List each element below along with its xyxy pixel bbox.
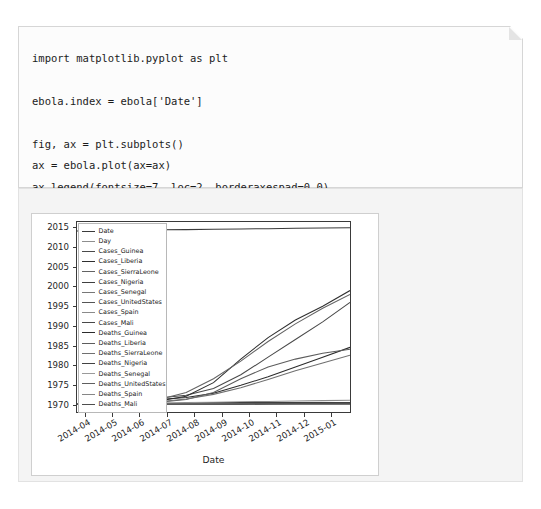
legend-label: Date (99, 228, 114, 234)
corner-fold-icon (509, 27, 522, 40)
legend-entry: Cases_UnitedStates (82, 297, 163, 307)
y-tick-label: 1995 (37, 301, 69, 311)
y-tick-mark (73, 306, 77, 307)
legend-label: Cases_Liberia (99, 258, 143, 264)
legend-label: Deaths_Mali (99, 401, 138, 407)
legend-entry: Cases_Mali (82, 318, 163, 328)
legend-swatch-icon (82, 251, 95, 252)
legend-label: Cases_Guinea (99, 248, 144, 254)
legend-label: Deaths_UnitedStates (99, 381, 166, 387)
legend-entry: Date (82, 226, 163, 236)
legend-label: Day (99, 238, 112, 244)
y-tick-label: 2015 (37, 222, 69, 232)
legend-entry: Deaths_Liberia (82, 338, 163, 348)
legend-label: Deaths_Senegal (99, 371, 151, 377)
y-tick-mark (73, 365, 77, 366)
legend-label: Deaths_Spain (99, 391, 143, 397)
x-tick-mark (112, 413, 113, 417)
y-tick-mark (73, 346, 77, 347)
legend-swatch-icon (82, 282, 95, 283)
legend-entry: Day (82, 236, 163, 246)
y-tick-label: 1970 (37, 400, 69, 410)
legend-swatch-icon (82, 302, 95, 303)
legend-swatch-icon (82, 271, 95, 272)
x-axis-label: Date (76, 454, 351, 465)
x-tick-mark (331, 413, 332, 417)
legend-swatch-icon (82, 404, 95, 405)
x-tick-mark (222, 413, 223, 417)
legend-entry: Deaths_UnitedStates (82, 379, 163, 389)
y-tick-label: 1990 (37, 321, 69, 331)
cell-output-area: 1970197519801985199019952000200520102015… (18, 188, 523, 482)
legend-entry: Cases_Nigeria (82, 277, 163, 287)
legend-label: Deaths_Liberia (99, 340, 147, 346)
legend-swatch-icon (82, 312, 95, 313)
legend-entry: Cases_Spain (82, 308, 163, 318)
legend-entry: Deaths_SierraLeone (82, 348, 163, 358)
y-tick-label: 1975 (37, 380, 69, 390)
x-tick-mark (249, 413, 250, 417)
legend-entry: Cases_Senegal (82, 287, 163, 297)
x-tick-mark (194, 413, 195, 417)
code-cell[interactable]: import matplotlib.pyplot as plt ebola.in… (18, 26, 523, 188)
legend-label: Deaths_Guinea (99, 330, 148, 336)
x-tick-mark (304, 413, 305, 417)
plot-legend: DateDayCases_GuineaCases_LiberiaCases_Si… (78, 223, 167, 413)
y-tick-mark (73, 286, 77, 287)
legend-swatch-icon (82, 383, 95, 384)
y-tick-mark (73, 247, 77, 248)
legend-label: Cases_Nigeria (99, 279, 144, 285)
legend-swatch-icon (82, 261, 95, 262)
y-tick-label: 2005 (37, 262, 69, 272)
legend-entry: Deaths_Nigeria (82, 358, 163, 368)
y-tick-mark (73, 405, 77, 406)
legend-label: Cases_UnitedStates (99, 299, 162, 305)
legend-label: Deaths_Nigeria (99, 360, 148, 366)
legend-swatch-icon (82, 231, 95, 232)
legend-label: Deaths_SierraLeone (99, 350, 163, 356)
x-tick-mark (167, 413, 168, 417)
y-tick-label: 2010 (37, 242, 69, 252)
legend-swatch-icon (82, 292, 95, 293)
legend-swatch-icon (82, 353, 95, 354)
y-tick-mark (73, 267, 77, 268)
legend-label: Cases_SierraLeone (99, 269, 159, 275)
legend-swatch-icon (82, 322, 95, 323)
legend-entry: Cases_Guinea (82, 246, 163, 256)
y-tick-label: 1985 (37, 341, 69, 351)
legend-swatch-icon (82, 373, 95, 374)
y-tick-label: 1980 (37, 360, 69, 370)
legend-label: Cases_Mali (99, 320, 134, 326)
y-tick-mark (73, 385, 77, 386)
notebook-page: import matplotlib.pyplot as plt ebola.in… (0, 0, 541, 509)
legend-entry: Deaths_Mali (82, 399, 163, 409)
legend-label: Cases_Senegal (99, 289, 147, 295)
y-tick-label: 2000 (37, 281, 69, 291)
y-tick-mark (73, 227, 77, 228)
legend-label: Cases_Spain (99, 309, 139, 315)
legend-entry: Cases_SierraLeone (82, 267, 163, 277)
legend-swatch-icon (82, 394, 95, 395)
y-tick-mark (73, 326, 77, 327)
legend-entry: Deaths_Senegal (82, 369, 163, 379)
legend-swatch-icon (82, 343, 95, 344)
x-tick-mark (85, 413, 86, 417)
legend-swatch-icon (82, 241, 95, 242)
legend-entry: Deaths_Guinea (82, 328, 163, 338)
legend-entry: Cases_Liberia (82, 257, 163, 267)
matplotlib-figure: 1970197519801985199019952000200520102015… (31, 213, 379, 476)
legend-swatch-icon (82, 332, 95, 333)
legend-swatch-icon (82, 363, 95, 364)
legend-entry: Deaths_Spain (82, 389, 163, 399)
